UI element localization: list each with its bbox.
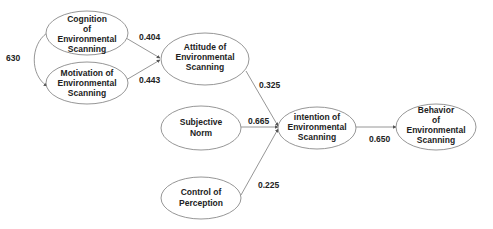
svg-text:Scanning: Scanning — [68, 44, 106, 54]
svg-text:Control of: Control of — [181, 187, 222, 197]
svg-text:Environmental: Environmental — [57, 78, 116, 88]
node-cognition: Cognition of Environmental Scanning — [46, 11, 128, 55]
svg-text:Attitude of: Attitude of — [184, 42, 227, 52]
svg-text:Scanning: Scanning — [417, 135, 455, 145]
svg-text:Perception: Perception — [179, 198, 223, 208]
svg-text:Norm: Norm — [190, 128, 213, 138]
svg-text:Scanning: Scanning — [68, 88, 106, 98]
node-motivation: Motivation of Environmental Scanning — [46, 62, 128, 104]
edge-label-0325: 0.325 — [259, 80, 281, 90]
svg-text:of: of — [83, 24, 91, 34]
svg-text:Scanning: Scanning — [298, 132, 336, 142]
svg-text:Environmental: Environmental — [406, 125, 465, 135]
node-attitude: Attitude of Environmental Scanning — [161, 33, 249, 85]
svg-text:of: of — [432, 115, 440, 125]
node-control-of-perception: Control of Perception — [161, 177, 241, 219]
svg-text:Behavior: Behavior — [418, 105, 455, 115]
svg-text:Environmental: Environmental — [175, 52, 234, 62]
edge-label-630: 630 — [6, 53, 20, 63]
svg-text:Environmental: Environmental — [57, 34, 116, 44]
edge-label-0404: 0.404 — [139, 32, 161, 42]
svg-text:Cognition: Cognition — [67, 14, 107, 24]
edge-label-0225: 0.225 — [258, 180, 280, 190]
edge-label-0665: 0.665 — [248, 116, 270, 126]
node-behavior: Behavior of Environmental Scanning — [396, 104, 476, 150]
edge-label-0650: 0.650 — [369, 134, 391, 144]
svg-text:Motivation of: Motivation of — [61, 68, 114, 78]
svg-text:Subjective: Subjective — [180, 117, 223, 127]
svg-text:intention of: intention of — [294, 112, 340, 122]
node-subjective-norm: Subjective Norm — [161, 106, 241, 150]
svg-text:Environmental: Environmental — [287, 122, 346, 132]
svg-text:Scanning: Scanning — [186, 62, 224, 72]
path-diagram: 630 0.404 0.443 0.325 0.665 0.225 0.650 … — [0, 0, 493, 229]
node-intention: intention of Environmental Scanning — [278, 107, 356, 149]
edge-label-0443: 0.443 — [139, 75, 161, 85]
edge-cognition-motivation — [34, 33, 47, 86]
